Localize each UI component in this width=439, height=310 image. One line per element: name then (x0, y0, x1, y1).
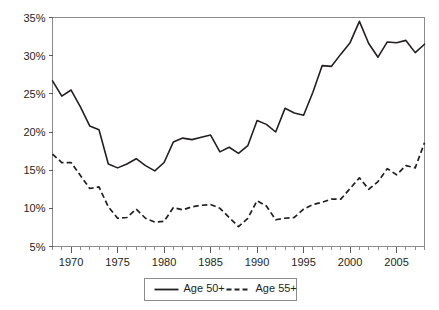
y-tick-label: 30% (23, 50, 45, 62)
x-tick-label: 2000 (338, 256, 362, 268)
line-chart: 5%10%15%20%25%30%35% 1970197519801985199… (0, 0, 439, 310)
y-tick-label: 10% (23, 202, 45, 214)
chart-container: 5%10%15%20%25%30%35% 1970197519801985199… (0, 0, 439, 310)
x-tick-label: 1980 (152, 256, 176, 268)
x-tick-label: 2005 (384, 256, 408, 268)
x-tick-label: 1970 (59, 256, 83, 268)
x-tick-label: 1995 (291, 256, 315, 268)
y-tick-label: 5% (30, 241, 46, 253)
y-tick-label: 25% (23, 88, 45, 100)
y-tick-label: 35% (23, 12, 45, 24)
x-tick-label: 1975 (105, 256, 129, 268)
y-tick-label: 15% (23, 164, 45, 176)
x-tick-label: 1990 (245, 256, 269, 268)
legend-label: Age 50+ (184, 282, 225, 294)
legend-label: Age 55+ (256, 282, 297, 294)
x-tick-label: 1985 (198, 256, 222, 268)
chart-legend: Age 50+Age 55+ (145, 279, 297, 301)
y-tick-label: 20% (23, 126, 45, 138)
